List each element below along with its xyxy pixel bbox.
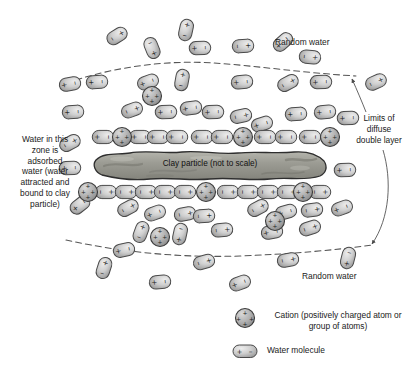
water-molecule: –+	[92, 130, 114, 143]
charge-sign: –	[322, 80, 332, 84]
water-molecule: +–	[115, 197, 140, 219]
water-molecule: –+	[202, 105, 224, 119]
water-molecule: –+	[254, 130, 276, 143]
water-molecule: +–	[257, 185, 279, 198]
water-molecule: –+	[142, 35, 162, 60]
legend-water-symbol: + –	[233, 345, 257, 358]
cation: ++++	[234, 128, 253, 147]
charge-sign: +	[127, 189, 136, 195]
svg-text:+: +	[242, 320, 247, 327]
charge-sign: +	[190, 45, 199, 51]
charge-sign: +	[245, 134, 250, 140]
charge-sign: +	[241, 139, 246, 145]
charge-sign: +	[86, 194, 91, 200]
charge-sign: –	[194, 214, 204, 219]
charge-sign: +	[269, 189, 278, 195]
charge-sign: –	[167, 110, 177, 114]
charge-sign: –	[238, 190, 248, 194]
charge-sign: +	[249, 189, 258, 195]
water-molecule: +–	[104, 25, 129, 48]
charge-sign: +	[273, 223, 278, 229]
charge-sign: +	[305, 189, 310, 195]
charge-sign: –	[346, 168, 356, 172]
charge-sign: +	[150, 279, 160, 286]
water-molecule: +–	[275, 72, 300, 94]
charge-sign: –	[297, 111, 307, 116]
charge-sign: +	[335, 167, 344, 173]
charge-sign: –	[223, 135, 233, 139]
charge-sign: +	[63, 109, 72, 116]
water-molecule: +–	[115, 185, 137, 198]
adsorbed-water-label: Water in this zone is adsorbed water (wa…	[6, 134, 84, 209]
charge-sign: +	[255, 134, 264, 140]
water-molecule: –+	[62, 105, 85, 120]
svg-text:+: +	[237, 348, 243, 356]
cation: ++++	[321, 128, 340, 147]
water-molecule: +–	[94, 256, 113, 281]
charge-sign: +	[156, 109, 165, 115]
water-molecule: –+	[143, 203, 168, 223]
legend-cation-symbol: + + + +	[236, 309, 255, 328]
charge-sign: +	[167, 134, 176, 140]
water-molecule: –+	[191, 130, 213, 143]
charge-sign: +	[276, 134, 285, 140]
water-molecule: –+	[314, 104, 337, 119]
water-molecule: +–	[154, 185, 176, 198]
water-molecule: –+	[112, 241, 136, 258]
charge-sign: +	[186, 189, 195, 195]
water-molecule: –+	[147, 130, 169, 143]
water-molecule: +–	[174, 185, 196, 198]
leader-line-lower	[372, 150, 388, 244]
charge-sign: +	[158, 239, 163, 245]
cation: ++++	[294, 183, 313, 202]
water-molecule: +–	[298, 218, 323, 237]
charge-sign: +	[192, 134, 201, 140]
water-molecule: –+	[179, 100, 202, 116]
charge-sign: +	[332, 134, 337, 140]
charge-sign: +	[229, 189, 238, 195]
charge-sign: –	[218, 190, 228, 194]
legend-cation-label: Cation (positively charged atom or group…	[267, 310, 409, 332]
water-molecule: –+	[228, 273, 253, 293]
water-molecule: –+	[275, 130, 297, 143]
leader-line-upper	[352, 79, 366, 112]
charge-sign: +	[150, 98, 155, 104]
charge-sign: +	[311, 54, 321, 61]
water-molecule: –+	[171, 222, 188, 246]
charge-sign: –	[136, 190, 146, 194]
water-molecule: –+	[299, 130, 321, 143]
charge-sign: +	[286, 111, 295, 118]
water-molecule: +–	[193, 209, 215, 224]
cation: ++++	[151, 228, 170, 247]
charge-sign: –	[214, 110, 224, 114]
charge-sign: +	[154, 93, 159, 99]
charge-sign: –	[98, 79, 108, 84]
svg-text:+: +	[242, 309, 247, 316]
clay-particle-diagram: +––++––++––++––+–+–++––++––++––++––+–+–+…	[0, 0, 413, 380]
water-molecule: +–	[300, 202, 323, 218]
charge-sign: –	[155, 190, 165, 194]
cation: ++++	[197, 183, 216, 202]
water-molecule: –+	[86, 75, 109, 90]
random-water-label-top: Random water	[275, 37, 329, 48]
water-molecule: +–	[299, 49, 322, 64]
water-molecule: +–	[217, 185, 239, 198]
random-water-label-bottom: Random water	[302, 271, 356, 282]
charge-sign: –	[178, 135, 188, 139]
charge-sign: +	[338, 115, 347, 121]
water-molecule: –+	[330, 198, 355, 218]
charge-sign: –	[258, 190, 268, 194]
charge-sign: +	[87, 79, 96, 86]
charge-sign: –	[175, 190, 185, 194]
svg-text:+: +	[249, 315, 254, 322]
charge-sign: +	[321, 189, 330, 195]
water-molecule: +–	[135, 185, 157, 198]
charge-sign: +	[232, 79, 242, 86]
charge-sign: +	[120, 139, 125, 145]
water-molecule: +–	[211, 222, 234, 237]
charge-sign: +	[277, 218, 282, 224]
charge-sign: +	[93, 134, 102, 140]
charge-sign: –	[201, 46, 211, 50]
charge-sign: +	[90, 189, 95, 195]
water-molecule: –+	[166, 130, 188, 143]
